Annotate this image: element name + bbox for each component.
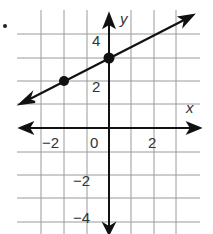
tick-y-neg4: −4 — [73, 209, 90, 226]
tick-x-2: 2 — [148, 134, 156, 151]
tick-x-0: 0 — [90, 134, 98, 151]
y-axis — [104, 14, 114, 234]
tick-y-neg2: −2 — [73, 172, 90, 189]
x-axis-label: x — [185, 99, 194, 116]
tick-x-neg2: −2 — [42, 134, 59, 151]
point-0-3 — [104, 53, 115, 64]
y-axis-label: y — [119, 10, 129, 27]
tick-y-2: 2 — [92, 78, 100, 95]
tick-y-4: 4 — [92, 32, 100, 49]
point-neg2-2 — [59, 76, 69, 86]
coordinate-plane: y x 4 2 −2 0 2 −2 −4 — [0, 0, 213, 234]
